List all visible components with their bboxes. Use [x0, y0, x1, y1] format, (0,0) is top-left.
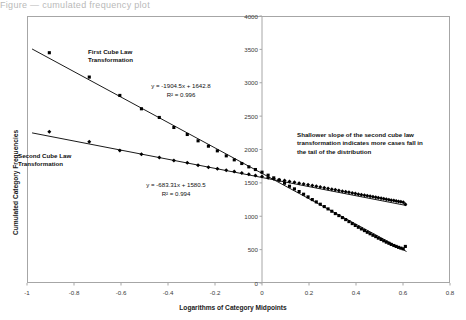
series-2-equation-text: y = -683.31x + 1580.5: [130, 181, 222, 190]
y-tick-label: 3000: [226, 79, 258, 86]
x-tick-label: -0.2: [200, 289, 230, 296]
y-tick-label: 4000: [226, 13, 258, 20]
x-tick-label: -0.8: [59, 289, 89, 296]
x-tick-label: -0.4: [153, 289, 183, 296]
chart-figure: Figure — cumulated frequency plot 050010…: [0, 0, 466, 320]
series-1-r2-text: R² = 0.996: [135, 91, 227, 100]
y-axis-title: Cumulated Category Frequencies: [12, 130, 19, 235]
series-1-equation-text: y = -1904.5x + 1642.8: [135, 82, 227, 91]
y-tick-label: 2000: [226, 146, 258, 153]
y-tick-label: 0: [226, 280, 258, 287]
y-tick-label: 1500: [226, 179, 258, 186]
series-2-label: Second Cube Law Transformation: [18, 152, 71, 169]
x-axis-title: Logarithms of Category Midpoints: [0, 304, 466, 311]
y-tick-label: 2500: [226, 113, 258, 120]
x-tick-label: 0.6: [388, 289, 418, 296]
x-tick-label: 0: [247, 289, 277, 296]
y-tick-label: 500: [226, 246, 258, 253]
series-2-equation: y = -683.31x + 1580.5 R² = 0.994: [130, 181, 222, 198]
x-tick-label: 0.4: [341, 289, 371, 296]
series-1-label: First Cube Law Transformation: [88, 48, 133, 65]
y-tick-label: 1000: [226, 213, 258, 220]
x-tick-label: -1: [12, 289, 42, 296]
x-tick-label: 0.2: [294, 289, 324, 296]
series-2-r2-text: R² = 0.994: [130, 190, 222, 199]
x-tick-label: 0.8: [435, 289, 465, 296]
y-tick-label: 3500: [226, 46, 258, 53]
x-tick-label: -0.6: [106, 289, 136, 296]
shallower-slope-note: Shallower slope of the second cube law t…: [297, 131, 423, 156]
series-1-equation: y = -1904.5x + 1642.8 R² = 0.996: [135, 82, 227, 99]
